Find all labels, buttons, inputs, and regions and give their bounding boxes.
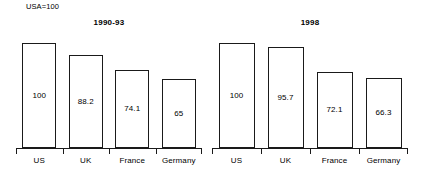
bar-value-label: 66.3 <box>376 109 392 117</box>
bar: 74.1 <box>115 70 149 148</box>
bar-value-label: 72.1 <box>327 106 343 114</box>
category-label: Germany <box>156 156 203 165</box>
x-axis-category-labels: US UK France Germany <box>16 156 202 165</box>
category-label: US <box>212 156 261 165</box>
category-label: UK <box>63 156 110 165</box>
bar-slot: 95.7 <box>261 32 310 148</box>
bar-group: 100 88.2 74.1 65 <box>16 32 202 148</box>
bar-value-label: 100 <box>230 92 244 100</box>
axis-tick <box>201 149 202 154</box>
bar: 65 <box>162 79 196 148</box>
bar-value-label: 95.7 <box>278 94 294 102</box>
chart-figure: USA=100 1990-93 100 88.2 74.1 <box>0 0 423 180</box>
axis-tick <box>261 149 262 154</box>
category-label: France <box>310 156 359 165</box>
panel-title: 1990-93 <box>16 18 202 27</box>
bar: 72.1 <box>317 72 353 148</box>
bar-group: 100 95.7 72.1 66.3 <box>212 32 408 148</box>
chart-panel-1990-93: 1990-93 100 88.2 74.1 <box>16 18 202 170</box>
axis-tick <box>407 149 408 154</box>
bar: 66.3 <box>366 78 402 148</box>
axis-tick <box>359 149 360 154</box>
chart-panel-1998: 1998 100 95.7 72.1 <box>212 18 408 170</box>
category-label: Germany <box>359 156 408 165</box>
bar: 100 <box>22 43 56 148</box>
bar-slot: 74.1 <box>109 32 156 148</box>
x-axis-ticks <box>212 149 408 154</box>
bar: 100 <box>219 43 255 148</box>
panel-title: 1998 <box>212 18 408 27</box>
bar: 88.2 <box>69 55 103 148</box>
bar-value-label: 100 <box>32 92 46 100</box>
axis-tick <box>156 149 157 154</box>
bar-slot: 66.3 <box>359 32 408 148</box>
x-axis-category-labels: US UK France Germany <box>212 156 408 165</box>
axis-tick <box>16 149 17 154</box>
axis-tick <box>310 149 311 154</box>
bar: 95.7 <box>268 47 304 148</box>
plot-area: 100 88.2 74.1 65 <box>16 32 202 148</box>
category-label: France <box>109 156 156 165</box>
bar-slot: 100 <box>212 32 261 148</box>
axis-tick <box>212 149 213 154</box>
x-axis-ticks <box>16 149 202 154</box>
axis-tick <box>109 149 110 154</box>
bar-slot: 88.2 <box>63 32 110 148</box>
bar-slot: 72.1 <box>310 32 359 148</box>
axis-tick <box>63 149 64 154</box>
bar-slot: 100 <box>16 32 63 148</box>
bar-value-label: 74.1 <box>124 105 140 113</box>
bar-value-label: 88.2 <box>78 98 94 106</box>
bar-slot: 65 <box>156 32 203 148</box>
category-label: UK <box>261 156 310 165</box>
plot-area: 100 95.7 72.1 66.3 <box>212 32 408 148</box>
normalization-note: USA=100 <box>26 2 59 11</box>
bar-value-label: 65 <box>174 110 183 118</box>
category-label: US <box>16 156 63 165</box>
